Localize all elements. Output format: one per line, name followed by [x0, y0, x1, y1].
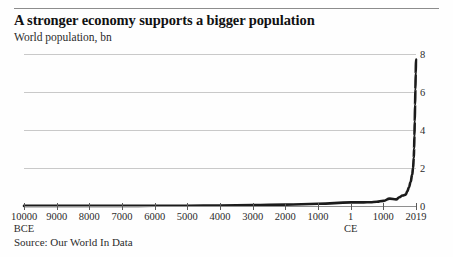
x-tick-7000 — [122, 203, 123, 210]
source-note: Source: Our World In Data — [14, 236, 133, 248]
x-tick-label-7000: 7000 — [112, 211, 133, 222]
x-tick-label-6000: 6000 — [144, 211, 165, 222]
x-tick-6000 — [155, 203, 156, 210]
x-tick-1000 — [383, 203, 384, 210]
x-tick-label-5000: 5000 — [177, 211, 198, 222]
x-tick-label-2019: 2019 — [406, 211, 427, 222]
x-tick-8000 — [89, 203, 90, 210]
y-tick-label-8: 8 — [420, 49, 440, 60]
x-tick-label-1: 1 — [348, 211, 353, 222]
x-tick-3000 — [253, 203, 254, 210]
y-tick-label-0: 0 — [420, 201, 440, 212]
top-divider — [14, 8, 439, 9]
x-tick-5000 — [187, 203, 188, 210]
chart-subtitle: World population, bn — [14, 31, 112, 45]
x-tick-2019 — [416, 203, 417, 210]
x-tick-1000 — [318, 203, 319, 210]
x-tick-label-2000: 2000 — [275, 211, 296, 222]
x-tick-10000 — [24, 203, 25, 210]
x-tick-label-8000: 8000 — [79, 211, 100, 222]
x-tick-label-1000: 1000 — [308, 211, 329, 222]
y-tick-label-2: 2 — [420, 163, 440, 174]
x-era-label-CE: CE — [344, 223, 357, 234]
x-tick-label-9000: 9000 — [46, 211, 67, 222]
x-tick-9000 — [57, 203, 58, 210]
x-tick-2000 — [285, 203, 286, 210]
x-tick-1 — [351, 203, 352, 210]
chart-title: A stronger economy supports a bigger pop… — [14, 12, 315, 29]
population-curve — [24, 54, 416, 207]
chart-page: A stronger economy supports a bigger pop… — [0, 0, 453, 257]
y-tick-label-6: 6 — [420, 87, 440, 98]
y-tick-label-4: 4 — [420, 125, 440, 136]
x-tick-label-1000: 1000 — [373, 211, 394, 222]
x-tick-4000 — [220, 203, 221, 210]
x-tick-label-4000: 4000 — [210, 211, 231, 222]
x-era-label-BCE: BCE — [14, 223, 34, 234]
x-tick-label-10000: 10000 — [11, 211, 37, 222]
x-tick-label-3000: 3000 — [242, 211, 263, 222]
